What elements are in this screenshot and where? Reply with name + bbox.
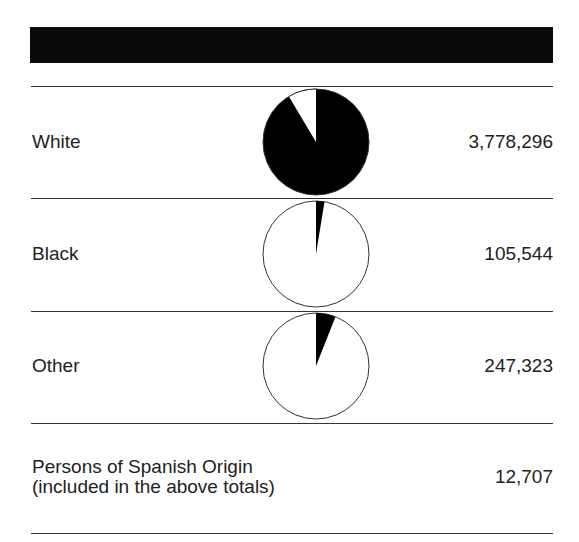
row-label-black: Black	[32, 243, 78, 264]
row-value-black: 105,544	[484, 243, 553, 264]
title-bar	[30, 27, 553, 63]
row-label-white: White	[32, 131, 81, 152]
row-value-white: 3,778,296	[468, 131, 553, 152]
footer-label-line1: Persons of Spanish Origin	[32, 456, 253, 477]
pie-other	[261, 311, 371, 421]
footer-value: 12,707	[495, 466, 553, 487]
pie-white	[261, 87, 371, 197]
divider	[31, 533, 553, 534]
row-label-other: Other	[32, 355, 80, 376]
row-value-other: 247,323	[484, 355, 553, 376]
footer-label-line2: (included in the above totals)	[32, 476, 275, 497]
divider	[31, 423, 553, 424]
pie-black	[261, 199, 371, 309]
